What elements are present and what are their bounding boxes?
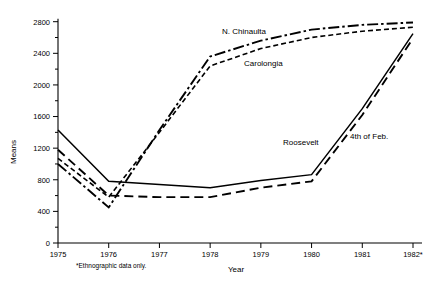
y-tick-label: 1600 <box>33 112 50 121</box>
line-chart: 0400800120016002000240028001975197619771… <box>0 0 442 284</box>
y-tick-label: 2000 <box>33 81 50 90</box>
series-label-roosevelt: Roosevelt <box>283 138 319 147</box>
y-axis-title: Means <box>9 140 18 164</box>
series-group <box>58 22 413 207</box>
x-tick-label: 1975 <box>50 250 67 259</box>
y-tick-label: 2400 <box>33 49 50 58</box>
y-tick-label: 1200 <box>33 144 50 153</box>
y-tick-label: 400 <box>37 207 50 216</box>
x-tick-label: 1981 <box>354 250 371 259</box>
series-label-carolongia: Carolongia <box>244 59 283 68</box>
chart-container: 0400800120016002000240028001975197619771… <box>0 0 442 284</box>
x-axis-title: Year <box>228 265 245 274</box>
series-label-4th-of-feb: 4th of Feb. <box>350 132 388 141</box>
series-label-n-chinaulta: N. Chinaulta <box>222 27 267 36</box>
x-tick-label: 1980 <box>303 250 320 259</box>
x-tick-label: 1982* <box>403 250 423 259</box>
series-line-4th-of-feb <box>58 38 413 197</box>
y-tick-label: 0 <box>46 239 50 248</box>
y-tick-label: 800 <box>37 176 50 185</box>
x-axis: 19751976197719781979198019811982* <box>50 243 423 259</box>
y-axis: 040080012001600200024002800 <box>33 18 58 248</box>
x-tick-label: 1977 <box>151 250 168 259</box>
footnote: *Ethnographic data only. <box>76 262 147 270</box>
y-tick-label: 2800 <box>33 18 50 27</box>
x-tick-label: 1978 <box>202 250 219 259</box>
series-line-n-chinaulta <box>58 22 413 207</box>
x-tick-label: 1979 <box>253 250 270 259</box>
x-tick-label: 1976 <box>100 250 117 259</box>
